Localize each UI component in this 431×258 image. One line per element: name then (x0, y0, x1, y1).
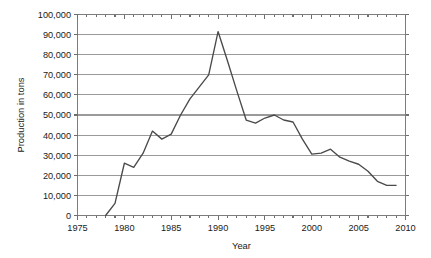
x-tick-label-1990: 1990 (208, 223, 228, 233)
y-axis-title: Production in tons (15, 77, 26, 152)
x-tick-label-1995: 1995 (255, 223, 275, 233)
x-tick-label-1980: 1980 (114, 223, 134, 233)
x-axis-tick-labels: 19751980198519901995200020052010 (67, 223, 415, 233)
y-tick-label-0: 0 (66, 211, 71, 221)
gridlines (78, 15, 406, 216)
y-axis-tick-labels: 010,00020,00030,00040,00050,00060,00070,… (38, 10, 71, 221)
y-tick-label-70000: 70,000 (43, 70, 71, 80)
x-tick-label-1975: 1975 (67, 223, 87, 233)
series-line-0 (106, 32, 397, 216)
production-line-chart: 010,00020,00030,00040,00050,00060,00070,… (0, 0, 431, 258)
x-tick-label-1985: 1985 (161, 223, 181, 233)
y-tick-label-90000: 90,000 (43, 30, 71, 40)
chart-canvas: 010,00020,00030,00040,00050,00060,00070,… (0, 0, 431, 258)
data-series-lines (106, 32, 397, 216)
y-tick-label-50000: 50,000 (43, 110, 71, 120)
x-axis-title: Year (232, 240, 251, 251)
y-tick-label-10000: 10,000 (43, 191, 71, 201)
y-tick-label-20000: 20,000 (43, 171, 71, 181)
y-tick-label-100000: 100,000 (38, 10, 71, 20)
chart-page: 010,00020,00030,00040,00050,00060,00070,… (0, 0, 431, 258)
y-tick-label-60000: 60,000 (43, 90, 71, 100)
y-tick-label-40000: 40,000 (43, 131, 71, 141)
x-tick-label-2000: 2000 (302, 223, 322, 233)
x-axis-tick-marks (78, 15, 406, 221)
x-tick-label-2005: 2005 (348, 223, 368, 233)
y-tick-label-30000: 30,000 (43, 151, 71, 161)
x-tick-label-2010: 2010 (395, 223, 415, 233)
y-tick-label-80000: 80,000 (43, 50, 71, 60)
